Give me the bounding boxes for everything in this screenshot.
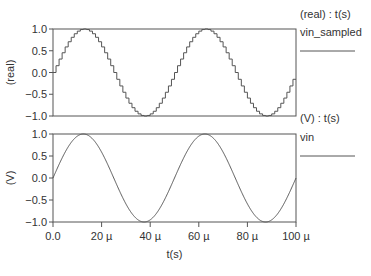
x-tick-label: 60 µ <box>188 230 210 242</box>
y-tick-label: −1.0 <box>25 216 47 228</box>
x-tick-label: 100 µ <box>282 230 310 242</box>
y-tick-label: 0.5 <box>32 45 47 57</box>
y-axis-label: (V) <box>4 171 16 186</box>
legend-entry-label: vin <box>300 131 314 143</box>
y-tick-label: 0.0 <box>32 67 47 79</box>
x-tick-label: 0.0 <box>45 230 60 242</box>
x-axis-label: t(s) <box>167 248 183 260</box>
x-tick-label: 20 µ <box>91 230 113 242</box>
y-axis-label: (real) <box>4 60 16 86</box>
y-tick-label: −0.5 <box>25 88 47 100</box>
legend-header: (V) : t(s) <box>300 112 340 124</box>
x-tick-label: 80 µ <box>237 230 259 242</box>
y-tick-label: −0.5 <box>25 194 47 206</box>
legend-header: (real) : t(s) <box>300 8 351 20</box>
legend-entry-label: vin_sampled <box>300 26 362 38</box>
chart-canvas: 1.00.50.0−0.5−1.0(real)(real) : t(s)vin_… <box>0 0 371 276</box>
y-tick-label: 1.0 <box>32 128 47 140</box>
trace-vin <box>53 134 296 222</box>
y-tick-label: −1.0 <box>25 110 47 122</box>
y-tick-label: 1.0 <box>32 23 47 35</box>
trace-vin_sampled <box>53 29 296 116</box>
y-tick-label: 0.5 <box>32 150 47 162</box>
y-tick-label: 0.0 <box>32 172 47 184</box>
x-tick-label: 40 µ <box>139 230 161 242</box>
